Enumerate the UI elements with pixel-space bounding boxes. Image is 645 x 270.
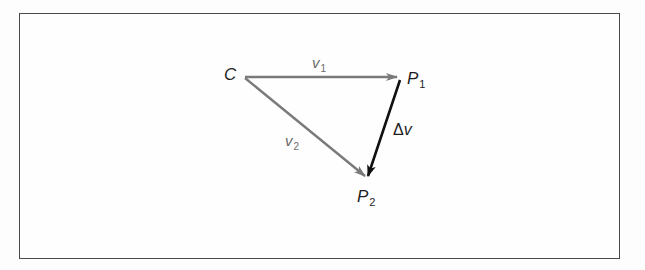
delta-v-letter: v	[404, 121, 412, 138]
point-label-c: C	[224, 66, 236, 83]
v1-subscript: 1	[321, 63, 327, 74]
p2-subscript: 2	[369, 196, 375, 208]
p1-subscript: 1	[419, 78, 425, 90]
point-label-p2: P2	[357, 188, 375, 208]
point-c-text: C	[224, 65, 236, 84]
v1-letter: v	[312, 54, 320, 71]
p1-letter: P	[407, 69, 418, 88]
v2-subscript: 2	[294, 141, 300, 152]
vector-v2-arrow	[245, 78, 365, 176]
vector-label-delta-v: Δv	[393, 122, 412, 138]
delta-symbol: Δ	[393, 121, 404, 138]
vector-diagram	[0, 0, 645, 270]
point-label-p1: P1	[407, 70, 425, 90]
vector-label-v1: v1	[312, 55, 326, 74]
v2-letter: v	[285, 132, 293, 149]
vector-label-v2: v2	[285, 133, 299, 152]
p2-letter: P	[357, 187, 368, 206]
